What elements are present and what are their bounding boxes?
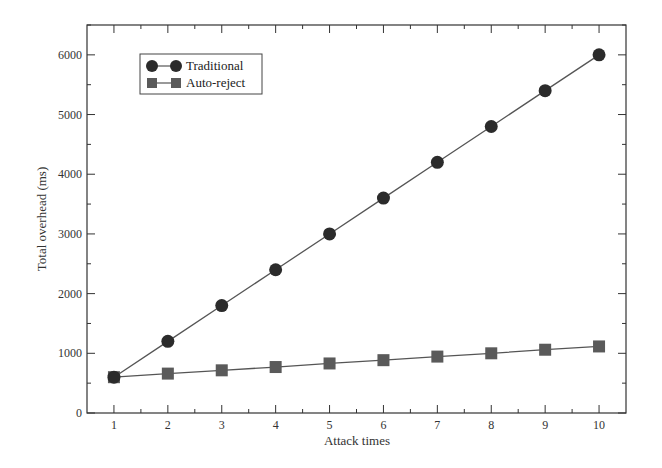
x-tick-label: 6 xyxy=(380,418,386,432)
circle-marker-icon xyxy=(377,192,390,205)
y-tick-label: 6000 xyxy=(58,48,82,62)
square-marker-icon xyxy=(431,351,443,363)
x-tick-label: 10 xyxy=(593,418,605,432)
x-tick-label: 8 xyxy=(488,418,494,432)
series-line xyxy=(114,346,599,377)
square-marker-icon xyxy=(216,364,228,376)
x-tick-label: 1 xyxy=(111,418,117,432)
y-tick-label: 1000 xyxy=(58,346,82,360)
legend-label-traditional: Traditional xyxy=(186,58,244,73)
circle-marker-icon xyxy=(593,48,606,61)
y-tick-label: 5000 xyxy=(58,108,82,122)
series-line xyxy=(114,55,599,377)
circle-marker-icon xyxy=(431,156,444,169)
circle-marker-icon xyxy=(485,120,498,133)
x-tick-label: 9 xyxy=(542,418,548,432)
square-marker-icon xyxy=(377,354,389,366)
square-marker-icon xyxy=(162,368,174,380)
line-chart: 0100020003000400050006000 12345678910 At… xyxy=(0,0,662,468)
square-marker-icon xyxy=(485,347,497,359)
legend: Traditional Auto-reject xyxy=(140,54,262,94)
x-tick-label: 3 xyxy=(219,418,225,432)
x-tick-label: 7 xyxy=(434,418,440,432)
circle-marker-icon xyxy=(323,227,336,240)
circle-marker-icon xyxy=(539,84,552,97)
y-tick-label: 0 xyxy=(76,406,82,420)
legend-label-auto-reject: Auto-reject xyxy=(186,75,246,90)
circle-marker-icon xyxy=(170,60,182,72)
series-auto-reject xyxy=(108,340,605,383)
square-marker-icon xyxy=(539,344,551,356)
y-tick-label: 4000 xyxy=(58,167,82,181)
x-tick-label: 4 xyxy=(273,418,279,432)
circle-marker-icon xyxy=(146,60,158,72)
square-marker-icon xyxy=(593,340,605,352)
x-tick-label: 2 xyxy=(165,418,171,432)
x-axis-title: Attack times xyxy=(324,433,390,448)
square-marker-icon xyxy=(171,78,181,88)
circle-marker-icon xyxy=(161,335,174,348)
y-tick-label: 3000 xyxy=(58,227,82,241)
y-tick-label: 2000 xyxy=(58,287,82,301)
series-traditional xyxy=(107,48,605,383)
square-marker-icon xyxy=(324,357,336,369)
y-axis-title: Total overhead (ms) xyxy=(34,167,49,272)
circle-marker-icon xyxy=(269,263,282,276)
circle-marker-icon xyxy=(107,371,120,384)
square-marker-icon xyxy=(270,361,282,373)
series-layer xyxy=(107,48,605,383)
x-tick-label: 5 xyxy=(327,418,333,432)
square-marker-icon xyxy=(147,78,157,88)
circle-marker-icon xyxy=(215,299,228,312)
